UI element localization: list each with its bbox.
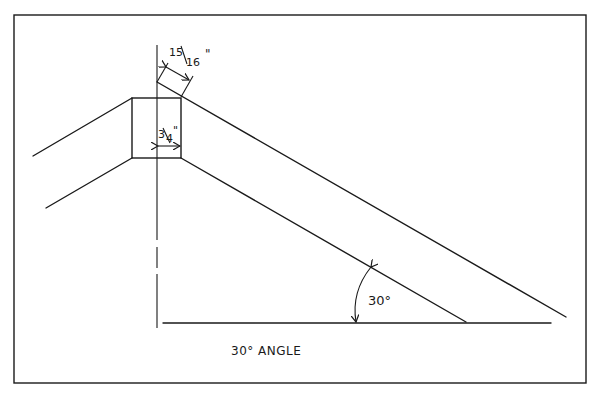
dim-15-16-num: 15 bbox=[169, 46, 183, 59]
dim-15-16-unit: " bbox=[205, 47, 211, 61]
frame-border bbox=[14, 15, 586, 383]
rafter-diagram: 15 16 " 3 4 " 30° 30° ANGLE bbox=[0, 0, 598, 400]
dim-15-16-den: 16 bbox=[186, 56, 200, 69]
left-rafter-bottom bbox=[46, 158, 132, 208]
diagram-title: 30° ANGLE bbox=[231, 344, 301, 358]
left-rafter-top bbox=[33, 98, 132, 156]
dim-extension-left bbox=[157, 63, 168, 82]
angle-label: 30° bbox=[368, 293, 391, 308]
right-rafter-bottom bbox=[181, 158, 466, 322]
dim-3-4-unit: " bbox=[173, 124, 178, 137]
dim-3-4-den: 4 bbox=[166, 132, 173, 145]
